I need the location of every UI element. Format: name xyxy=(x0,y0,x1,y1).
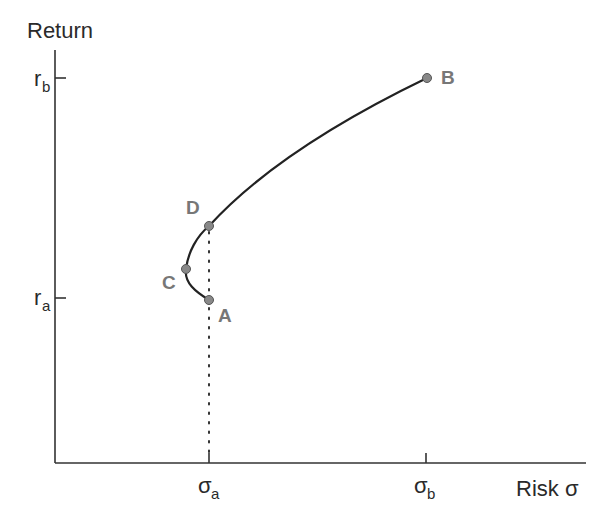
svg-text:r: r xyxy=(34,285,41,310)
svg-text:b: b xyxy=(42,78,50,95)
point-b-label: B xyxy=(441,67,455,88)
y-tick-label-ra: r a xyxy=(34,285,51,314)
point-b xyxy=(423,74,432,83)
y-axis-title: Return xyxy=(27,18,93,43)
point-d xyxy=(205,222,214,231)
point-c-label: C xyxy=(162,272,176,293)
x-axis-title: Risk σ xyxy=(516,476,579,501)
svg-text:a: a xyxy=(211,485,220,502)
risk-return-chart: A C D B Return Risk σ r b r a σ a σ b xyxy=(0,0,603,512)
frontier-curve xyxy=(186,78,427,300)
point-d-label: D xyxy=(186,197,200,218)
svg-text:r: r xyxy=(34,66,41,91)
y-tick-label-rb: r b xyxy=(34,66,50,95)
x-tick-label-sa: σ a xyxy=(198,473,220,502)
point-a xyxy=(205,296,214,305)
svg-text:σ: σ xyxy=(198,473,212,498)
svg-text:b: b xyxy=(427,485,435,502)
point-a-label: A xyxy=(218,305,232,326)
x-tick-label-sb: σ b xyxy=(414,473,435,502)
svg-text:σ: σ xyxy=(414,473,428,498)
svg-text:a: a xyxy=(42,297,51,314)
point-c xyxy=(182,265,191,274)
